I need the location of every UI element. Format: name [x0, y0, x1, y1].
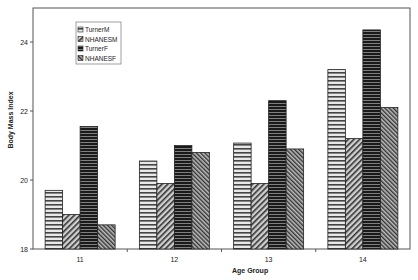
x-tick-label: 12 — [170, 256, 178, 263]
bar-turnerf-12 — [174, 146, 192, 250]
bar-turnerf-13 — [269, 101, 287, 249]
y-axis: 18202224 — [20, 39, 33, 253]
bar-turnerf-14 — [363, 30, 381, 249]
bar-turnerm-13 — [234, 143, 252, 249]
legend-swatch — [78, 37, 83, 42]
bar-turnerm-12 — [139, 161, 157, 249]
bar-turnerm-11 — [45, 190, 63, 249]
bar-nhanesm-13 — [251, 183, 269, 249]
legend-label: TurnerF — [85, 45, 108, 52]
bar-nhanesf-13 — [286, 149, 304, 249]
y-axis-label: Body Mass Index — [7, 91, 15, 148]
legend: TurnerMNHANESMTurnerFNHANESF — [76, 22, 121, 64]
legend-swatch — [78, 46, 83, 51]
y-tick-label: 22 — [20, 108, 28, 115]
bar-turnerm-14 — [328, 70, 346, 249]
legend-label: NHANESF — [85, 55, 116, 62]
bar-nhanesm-12 — [157, 183, 175, 249]
legend-swatch — [78, 27, 83, 32]
legend-label: NHANESM — [85, 36, 118, 43]
legend-swatch — [78, 56, 83, 61]
bar-chart: 18202224 11121314 TurnerMNHANESMTurnerFN… — [0, 0, 418, 280]
y-tick-label: 18 — [20, 246, 28, 253]
legend-label: TurnerM — [85, 26, 109, 33]
y-tick-label: 20 — [20, 177, 28, 184]
x-tick-label: 14 — [359, 256, 367, 263]
bar-nhanesm-11 — [63, 215, 81, 250]
bar-nhanesf-14 — [380, 108, 398, 249]
bar-nhanesf-11 — [98, 225, 116, 249]
y-tick-label: 24 — [20, 39, 28, 46]
x-tick-label: 13 — [265, 256, 273, 263]
bar-nhanesm-14 — [345, 139, 363, 249]
x-tick-label: 11 — [76, 256, 83, 263]
x-axis: 11121314 — [76, 249, 366, 263]
x-axis-label: Age Group — [232, 267, 268, 275]
bar-nhanesf-12 — [192, 152, 210, 249]
bar-turnerf-11 — [80, 127, 98, 249]
